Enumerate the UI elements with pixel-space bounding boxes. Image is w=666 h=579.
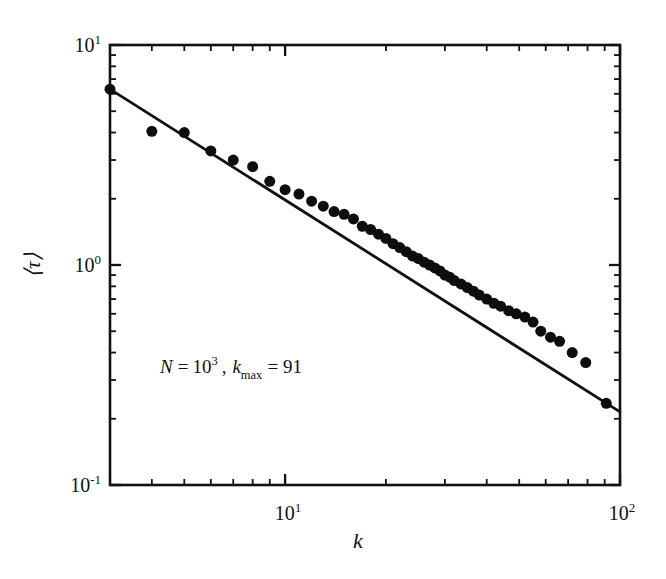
axis-ticks (110, 45, 620, 485)
figure-container: 101 102 101 100 10-1 k ⟨τ⟩ N=103,kmax=91 (0, 0, 666, 579)
annotation-k-subscript: max (241, 368, 263, 382)
data-point (318, 201, 329, 212)
data-point (228, 155, 239, 166)
data-point (146, 126, 157, 137)
parameter-annotation: N=103,kmax=91 (159, 354, 302, 382)
data-point (280, 184, 291, 195)
annotation-n-symbol: N (159, 356, 174, 377)
x-axis-tick-labels: 101 102 (275, 500, 636, 524)
data-point (567, 347, 578, 358)
y-axis-tick-labels: 101 100 10-1 (70, 32, 101, 496)
annotation-k-max-value: 91 (283, 356, 302, 377)
annotation-k-equals: = (267, 356, 278, 377)
data-point (205, 145, 216, 156)
x-tick-label-10: 101 (275, 500, 302, 524)
data-point (306, 196, 317, 207)
annotation-comma: , (222, 356, 227, 377)
plot-frame (110, 45, 620, 485)
data-point (329, 206, 340, 217)
data-point (348, 213, 359, 224)
log-log-scatter-plot: 101 102 101 100 10-1 k ⟨τ⟩ N=103,kmax=91 (0, 0, 666, 579)
data-point (554, 336, 565, 347)
annotation-equals: = (178, 356, 189, 377)
y-tick-label-0p1: 10-1 (70, 472, 101, 496)
data-point (528, 317, 539, 328)
data-point (601, 398, 612, 409)
annotation-n-exponent: 3 (211, 354, 217, 368)
data-point (580, 357, 591, 368)
data-point (179, 127, 190, 138)
data-point (264, 176, 275, 187)
y-axis-title: ⟨τ⟩ (20, 252, 45, 278)
y-tick-label-1: 100 (75, 252, 102, 276)
y-tick-label-10: 101 (75, 32, 102, 56)
data-point (247, 161, 258, 172)
data-point (293, 189, 304, 200)
annotation-n-base: 10 (192, 356, 211, 377)
data-point (339, 209, 350, 220)
data-point (105, 84, 116, 95)
x-tick-label-100: 102 (609, 500, 636, 524)
data-point (535, 326, 546, 337)
x-axis-title: k (353, 528, 364, 553)
